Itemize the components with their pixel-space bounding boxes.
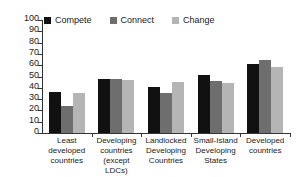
category-label-line: Least [42, 136, 92, 146]
y-axis-tick-label: 30 [29, 93, 39, 102]
y-axis-tick-label: 0 [34, 127, 39, 136]
bar-chart: CompeteConnectChange 1009080706050403020… [0, 0, 308, 177]
bar-connect [160, 93, 172, 133]
bar-connect [259, 60, 271, 133]
bar-group [240, 20, 290, 133]
bar-group [141, 20, 191, 133]
bar-compete [49, 92, 61, 133]
y-axis-tick-label: 40 [29, 82, 39, 91]
y-axis-tick: 0 [42, 133, 46, 134]
x-axis-category-labels: LeastdevelopedcountriesDevelopingcountri… [42, 136, 290, 177]
bar-change [73, 93, 85, 133]
bar-connect [110, 79, 122, 133]
plot-area: 1009080706050403020100 [42, 20, 290, 133]
x-axis-line [42, 133, 290, 134]
y-axis-tick-label: 70 [29, 48, 39, 57]
category-label: Leastdevelopedcountries [42, 136, 92, 166]
category-label: Developedcountries [240, 136, 290, 156]
category-label-line: States [191, 156, 241, 166]
bar-change [122, 80, 134, 133]
category-label-line: Landlocked [141, 136, 191, 146]
category-label-line: developed [42, 146, 92, 156]
category-label-line: countries [42, 156, 92, 166]
category-label-line: Developing [141, 146, 191, 156]
bar-change [271, 67, 283, 133]
bar-connect [210, 81, 222, 133]
category-label-line: Developing [92, 136, 142, 146]
bar-connect [61, 106, 73, 133]
y-axis-tick-label: 100 [24, 14, 39, 23]
category-label-line: Developed [240, 136, 290, 146]
category-label-line: countries [240, 146, 290, 156]
bar-change [222, 83, 234, 133]
y-axis-tick-label: 90 [29, 25, 39, 34]
bar-compete [148, 87, 160, 133]
bar-compete [98, 79, 110, 133]
y-axis-tick-label: 50 [29, 71, 39, 80]
category-label: LandlockedDevelopingCountries [141, 136, 191, 166]
y-axis-tick-label: 80 [29, 37, 39, 46]
bar-compete [247, 64, 259, 133]
y-axis-tick-label: 20 [29, 104, 39, 113]
category-label-line: countries [92, 146, 142, 156]
category-label-line: Countries [141, 156, 191, 166]
category-label-line: Developing [191, 146, 241, 156]
bar-compete [198, 75, 210, 133]
x-axis-tick-mark [290, 133, 291, 137]
bar-change [172, 82, 184, 133]
category-label-line: (except LDCs) [92, 156, 142, 176]
y-axis-tick-label: 60 [29, 59, 39, 68]
category-label: Developingcountries(except LDCs) [92, 136, 142, 176]
bar-group [191, 20, 241, 133]
category-label: Small-IslandDevelopingStates [191, 136, 241, 166]
category-label-line: Small-Island [191, 136, 241, 146]
bar-group [42, 20, 92, 133]
bar-group [92, 20, 142, 133]
y-axis-tick-label: 10 [29, 116, 39, 125]
